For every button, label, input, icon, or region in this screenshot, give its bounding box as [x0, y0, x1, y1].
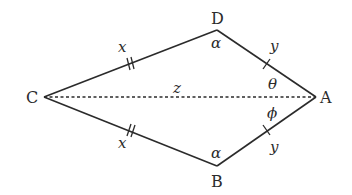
angle-label-theta: θ [268, 75, 277, 93]
angle-label-B: α [211, 144, 221, 162]
side-label-BA: y [269, 138, 279, 156]
angle-label-phi: ϕ [267, 104, 277, 122]
vertex-label-A: A [319, 88, 332, 107]
side-CB [44, 97, 217, 166]
angle-label-D: α [211, 34, 221, 52]
diagonal-label: z [172, 79, 181, 97]
kite-diagram: D B C A x x y y z α α θ ϕ [0, 0, 352, 195]
side-label-CD: x [118, 38, 127, 56]
vertex-label-D: D [211, 9, 224, 28]
double-tick-CB [127, 124, 135, 137]
vertex-label-C: C [26, 88, 38, 107]
vertex-label-B: B [211, 172, 223, 191]
side-label-DA: y [269, 37, 279, 55]
single-tick-DA [263, 59, 270, 69]
diagram-svg: D B C A x x y y z α α θ ϕ [0, 0, 352, 195]
side-CD [44, 30, 217, 97]
side-label-CB: x [118, 134, 127, 152]
